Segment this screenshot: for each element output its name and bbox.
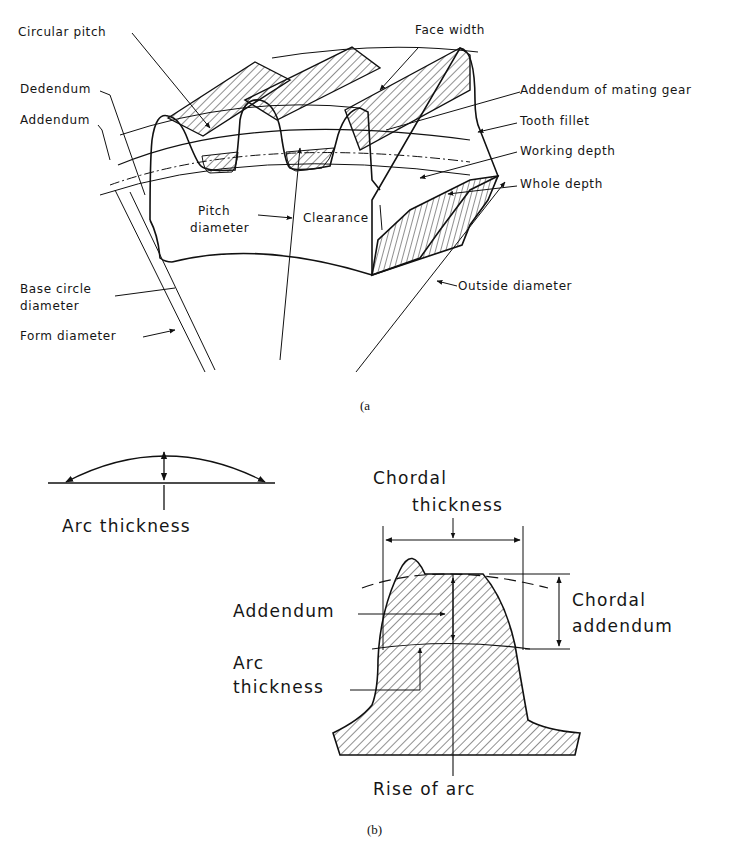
caption-b: (b)	[367, 822, 382, 838]
label-dedendum: Dedendum	[20, 83, 91, 96]
label-chordal-addendum-2: addendum	[572, 618, 673, 636]
caption-a: (a	[360, 398, 370, 414]
label-chordal-thickness-1: Chordal	[373, 470, 447, 488]
label-pitch-diameter-2: diameter	[190, 222, 249, 235]
label-chordal-addendum-1: Chordal	[572, 592, 646, 610]
label-form-diameter: Form diameter	[20, 330, 116, 343]
label-working-depth: Working depth	[520, 145, 616, 158]
label-base-circle-1: Base circle	[20, 283, 92, 296]
label-arc-thickness-2: thickness	[233, 679, 324, 697]
label-addendum-b: Addendum	[233, 603, 335, 621]
label-addendum: Addendum	[20, 114, 90, 127]
label-arc-thickness-top: Arc thickness	[62, 518, 191, 536]
label-base-circle-2: diameter	[20, 300, 79, 313]
label-pitch-diameter-1: Pitch	[198, 205, 230, 218]
label-face-width: Face width	[415, 24, 485, 37]
gear-nomenclature-drawing	[0, 0, 748, 854]
arc-thickness-sketch	[48, 452, 275, 510]
label-arc-thickness-1: Arc	[233, 655, 264, 673]
label-whole-depth: Whole depth	[520, 178, 603, 191]
label-outside-diameter: Outside diameter	[458, 280, 572, 293]
tooth-section	[333, 518, 580, 776]
label-addendum-of-mating-gear: Addendum of mating gear	[520, 84, 692, 97]
label-chordal-thickness-2: thickness	[412, 497, 503, 515]
label-rise-of-arc: Rise of arc	[373, 781, 476, 799]
label-tooth-fillet: Tooth fillet	[520, 115, 590, 128]
label-circular-pitch: Circular pitch	[18, 26, 106, 39]
label-clearance: Clearance	[303, 212, 369, 225]
